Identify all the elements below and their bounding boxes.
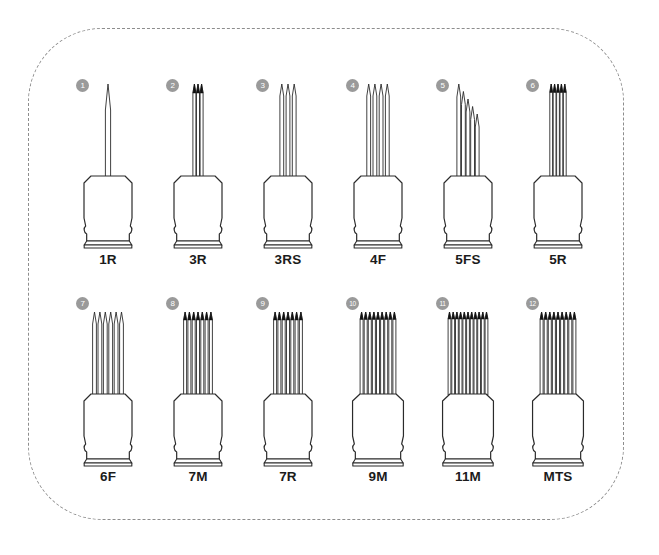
cartridge-drawing-9m: 10: [328, 290, 428, 475]
cartridge-label: 3R: [148, 252, 248, 267]
cartridge-label: 1R: [58, 252, 158, 267]
cartridge-body: [264, 176, 312, 241]
needle-cluster: [105, 84, 110, 177]
cartridge-base: [84, 459, 132, 466]
cartridge-number-badge: 10: [346, 297, 359, 310]
cartridge-body: [444, 176, 492, 241]
cartridge-number-badge: 1: [76, 79, 89, 92]
cartridge-label: 7M: [148, 469, 248, 484]
cartridge-body: [174, 394, 222, 459]
cartridge-base: [353, 459, 403, 466]
cartridge-drawing-4f: 4: [328, 68, 428, 253]
cartridge-drawing-5r: 6: [508, 68, 608, 253]
cartridge-drawing-1r: 1: [58, 68, 158, 253]
cartridge-item-mts[interactable]: 12MTS: [508, 290, 608, 475]
cartridge-body: [443, 394, 494, 459]
cartridge-base: [443, 459, 493, 466]
cartridge-label: 9M: [328, 469, 428, 484]
cartridge-drawing-7r: 9: [238, 290, 338, 475]
needle-cluster: [93, 312, 124, 395]
needle-cluster: [193, 84, 203, 177]
needle-cluster: [274, 312, 303, 395]
cartridge-base: [444, 241, 492, 248]
needle-cluster: [367, 84, 389, 177]
needle-cluster: [550, 84, 566, 177]
cartridge-base: [264, 241, 312, 248]
cartridge-drawing-3r: 2: [148, 68, 248, 253]
cartridge-body: [353, 394, 404, 459]
cartridge-item-1r[interactable]: 11R: [58, 68, 158, 253]
cartridge-item-9m[interactable]: 109M: [328, 290, 428, 475]
cartridge-drawing-7m: 8: [148, 290, 248, 475]
cartridge-body: [264, 394, 312, 459]
cartridge-drawing-3rs: 3: [238, 68, 338, 253]
cartridge-number-badge: 3: [256, 79, 269, 92]
cartridge-body: [533, 394, 584, 459]
cartridge-body: [174, 176, 222, 241]
needle-cluster: [280, 84, 296, 177]
cartridge-label: MTS: [508, 469, 608, 484]
cartridge-number-badge: 2: [166, 79, 179, 92]
cartridge-number-badge: 11: [436, 297, 449, 310]
needle-cluster: [184, 312, 213, 395]
cartridge-label: 4F: [328, 252, 428, 267]
cartridge-body: [534, 176, 582, 241]
cartridge-item-7m[interactable]: 87M: [148, 290, 248, 475]
cartridge-item-3rs[interactable]: 33RS: [238, 68, 338, 253]
cartridge-base: [84, 241, 132, 248]
cartridge-number-badge: 5: [436, 79, 449, 92]
cartridge-body: [354, 176, 402, 241]
cartridge-label: 5R: [508, 252, 608, 267]
cartridge-item-6f[interactable]: 76F: [58, 290, 158, 475]
cartridge-base: [174, 241, 222, 248]
cartridge-base: [354, 241, 402, 248]
cartridge-body: [84, 176, 132, 241]
cartridge-label: 5FS: [418, 252, 518, 267]
cartridge-item-7r[interactable]: 97R: [238, 290, 338, 475]
needle-cluster: [360, 312, 396, 395]
cartridge-label: 6F: [58, 469, 158, 484]
cartridge-number-badge: 12: [526, 297, 539, 310]
cartridge-item-5r[interactable]: 65R: [508, 68, 608, 253]
cartridge-drawing-5fs: 5: [418, 68, 518, 253]
cartridge-base: [533, 459, 583, 466]
cartridge-drawing-6f: 7: [58, 290, 158, 475]
cartridge-label: 3RS: [238, 252, 338, 267]
cartridge-number-badge: 9: [256, 297, 269, 310]
needle-cluster: [448, 312, 488, 395]
cartridge-number-badge: 7: [76, 297, 89, 310]
cartridge-base: [534, 241, 582, 248]
needle-chart-canvas: 11R23R33RS44F55FS65R76F87M97R109M1111M12…: [0, 0, 659, 555]
needle-cluster: [457, 84, 479, 177]
cartridge-item-5fs[interactable]: 55FS: [418, 68, 518, 253]
cartridge-item-3r[interactable]: 23R: [148, 68, 248, 253]
needle-cluster: [540, 312, 576, 395]
cartridge-number-badge: 8: [166, 297, 179, 310]
cartridge-label: 11M: [418, 469, 518, 484]
cartridge-body: [84, 394, 132, 459]
cartridge-number-badge: 6: [526, 79, 539, 92]
cartridge-label: 7R: [238, 469, 338, 484]
cartridge-number-badge: 4: [346, 79, 359, 92]
cartridge-drawing-mts: 12: [508, 290, 608, 475]
cartridge-base: [174, 459, 222, 466]
cartridge-item-11m[interactable]: 1111M: [418, 290, 518, 475]
cartridge-item-4f[interactable]: 44F: [328, 68, 428, 253]
cartridge-grid: 11R23R33RS44F55FS65R76F87M97R109M1111M12…: [0, 0, 659, 555]
cartridge-drawing-11m: 11: [418, 290, 518, 475]
cartridge-base: [264, 459, 312, 466]
